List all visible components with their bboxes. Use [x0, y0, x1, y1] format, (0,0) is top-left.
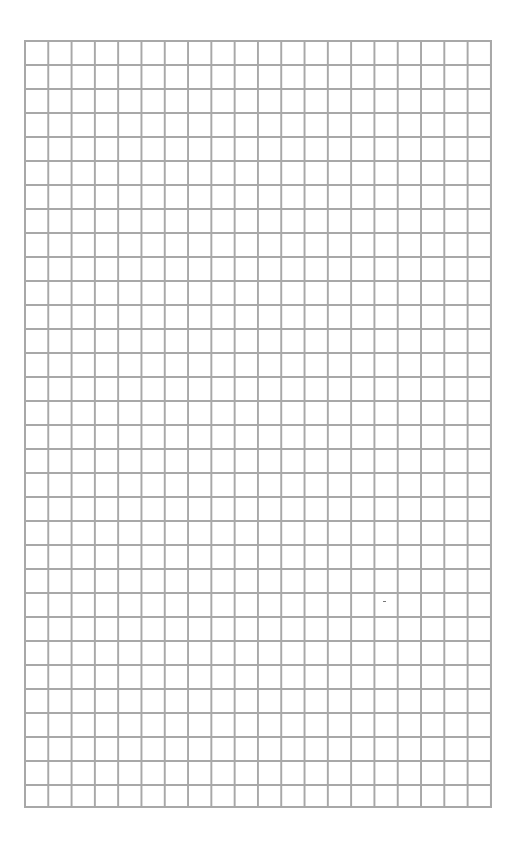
stray-mark — [383, 601, 386, 602]
graph-paper-page — [0, 0, 509, 852]
square-grid — [24, 40, 492, 808]
